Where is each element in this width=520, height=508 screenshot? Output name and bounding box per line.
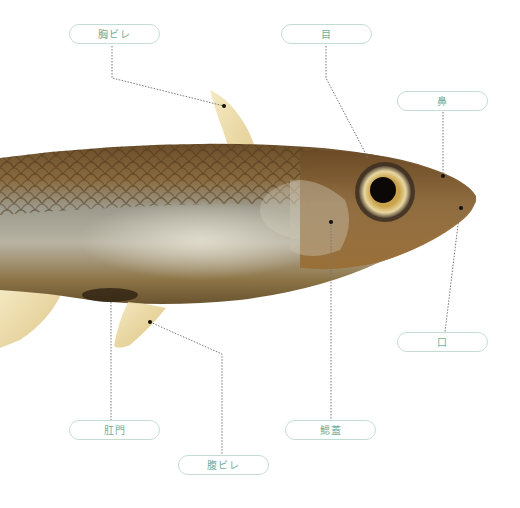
- label-nostril: 鼻: [397, 91, 488, 111]
- label-gill-cover: 鰓蓋: [285, 420, 376, 440]
- fish-anatomy-diagram: 胸ビレ 目 鼻 口 肛門 鰓蓋 腹ビレ: [0, 0, 520, 508]
- label-anus: 肛門: [69, 420, 160, 440]
- pelvic-fin-shape: [114, 302, 166, 348]
- label-pelvic-fin: 腹ビレ: [178, 455, 269, 475]
- label-eye: 目: [281, 24, 372, 44]
- label-pectoral-fin: 胸ビレ: [69, 24, 160, 44]
- label-mouth: 口: [397, 332, 488, 352]
